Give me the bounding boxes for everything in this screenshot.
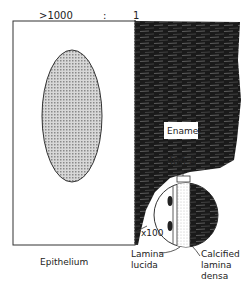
angstrom-label: 400 Å (167, 157, 196, 167)
epithelium-label: Epithelium (40, 257, 88, 267)
calcified-label-1: Calcified (201, 249, 240, 259)
enamel-label: Enamel (167, 126, 201, 136)
cell-nucleus-oval (42, 50, 102, 182)
scale-ratio-right: 1 (133, 11, 139, 21)
scale-ratio-colon: : (103, 11, 106, 21)
scale-ratio-left: >1000 (39, 11, 73, 21)
hemidesmosome-lower (168, 221, 173, 231)
magnification-label: x100 (141, 228, 164, 238)
lamina-lucida-band (177, 180, 190, 250)
hemidesmosome-upper (168, 196, 173, 206)
calcified-label-3: densa (201, 271, 228, 281)
calcified-label-2: lamina (201, 260, 232, 270)
lamina-lucida-label-2: lucida (131, 260, 158, 270)
lamina-lucida-label-1: Lamina (131, 249, 164, 259)
calcified-leader (192, 246, 200, 256)
